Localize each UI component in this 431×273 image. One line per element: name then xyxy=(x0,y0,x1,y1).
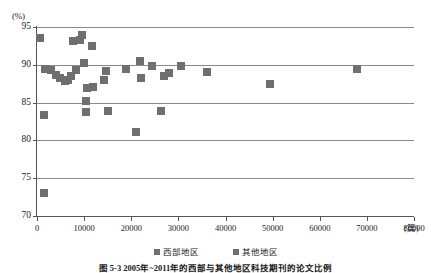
legend-swatch-icon xyxy=(233,249,239,255)
y-tick-label-85: 85 xyxy=(0,98,31,108)
gridline-y-85 xyxy=(37,103,414,104)
data-point xyxy=(177,62,185,70)
data-point xyxy=(40,111,48,119)
data-point xyxy=(40,189,48,197)
x-tick-mark-20000 xyxy=(131,217,132,221)
legend-entry-0: 西部地区 xyxy=(154,248,199,257)
x-tick-label-60000: 60000 xyxy=(295,224,345,233)
x-axis-unit-label: (篇) xyxy=(404,224,419,233)
x-tick-mark-10000 xyxy=(84,217,85,221)
data-point xyxy=(88,42,96,50)
x-tick-mark-40000 xyxy=(226,217,227,221)
x-tick-label-10000: 10000 xyxy=(59,224,109,233)
data-point xyxy=(82,108,90,116)
gridline-y-80 xyxy=(37,140,414,141)
data-point xyxy=(36,34,44,42)
x-tick-mark-80000 xyxy=(414,217,415,221)
data-point xyxy=(136,57,144,65)
legend-label: 其他地区 xyxy=(242,248,278,257)
data-point xyxy=(80,59,88,67)
y-tick-label-95: 95 xyxy=(0,22,31,32)
data-point xyxy=(137,74,145,82)
data-point xyxy=(122,65,130,73)
data-point xyxy=(100,76,108,84)
data-point xyxy=(102,67,110,75)
x-tick-label-70000: 70000 xyxy=(342,224,392,233)
data-point xyxy=(89,83,97,91)
y-tick-label-90: 90 xyxy=(0,60,31,70)
gridline-y-75 xyxy=(37,178,414,179)
y-axis-unit-label: (%) xyxy=(12,11,25,21)
data-point xyxy=(165,69,173,77)
legend: 西部地区其他地区 xyxy=(0,246,431,258)
data-point xyxy=(157,107,165,115)
scatter-plot: (%) 707580859095 01000020000300004000050… xyxy=(0,0,431,245)
x-tick-mark-0 xyxy=(37,217,38,221)
figure-container: (%) 707580859095 01000020000300004000050… xyxy=(0,0,431,273)
legend-swatch-icon xyxy=(154,249,160,255)
data-point xyxy=(78,31,86,39)
x-tick-label-30000: 30000 xyxy=(153,224,203,233)
x-tick-label-0: 0 xyxy=(12,224,62,233)
x-tick-mark-70000 xyxy=(367,217,368,221)
figure-caption: 图 5-3 2005年~2011年的西部与其他地区科技期刊的论文比例 xyxy=(0,263,431,273)
x-tick-label-40000: 40000 xyxy=(201,224,251,233)
data-point xyxy=(104,107,112,115)
x-tick-mark-30000 xyxy=(178,217,179,221)
data-point xyxy=(82,97,90,105)
data-point xyxy=(72,66,80,74)
y-tick-label-75: 75 xyxy=(0,173,31,183)
data-point xyxy=(266,80,274,88)
data-point xyxy=(132,128,140,136)
gridline-y-95 xyxy=(37,27,414,28)
x-tick-label-50000: 50000 xyxy=(248,224,298,233)
plot-area xyxy=(37,27,414,216)
y-tick-label-80: 80 xyxy=(0,135,31,145)
data-point xyxy=(353,65,361,73)
x-tick-label-20000: 20000 xyxy=(106,224,156,233)
data-point xyxy=(148,62,156,70)
y-tick-label-70: 70 xyxy=(0,211,31,221)
legend-entry-1: 其他地区 xyxy=(233,248,278,257)
legend-label: 西部地区 xyxy=(163,248,199,257)
x-tick-mark-60000 xyxy=(320,217,321,221)
x-tick-mark-50000 xyxy=(273,217,274,221)
data-point xyxy=(203,68,211,76)
